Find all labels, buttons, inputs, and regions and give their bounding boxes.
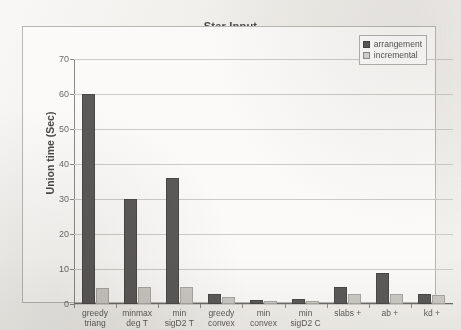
x-axis-label-line: greedy [200,308,242,318]
legend-item-arrangement: arrangement [363,39,422,50]
bar-group [327,59,369,304]
bar-groups [74,59,453,304]
x-axis-label-line: ab + [369,308,411,318]
x-axis-label-line: kd + [411,308,453,318]
chart-legend: arrangement incremental [359,35,427,65]
y-tick-label: 30 [59,194,69,204]
bar-group [74,59,116,304]
x-axis-label-line: sigD2 C [285,318,327,328]
bar-incremental [306,301,319,305]
x-axis-label: minconvex [242,308,284,328]
bar-group [242,59,284,304]
bar-arrangement [166,178,179,304]
x-axis-label: minmaxdeg T [116,308,158,328]
bar-group [285,59,327,304]
x-axis-label: greedyconvex [200,308,242,328]
x-axis-label: ab + [369,308,411,328]
y-tick-label: 60 [59,89,69,99]
x-axis-label-line: greedy [74,308,116,318]
x-axis-label-line: deg T [116,318,158,328]
bar-arrangement [82,94,95,304]
legend-item-incremental: incremental [363,50,422,61]
x-axis-label-line: convex [200,318,242,328]
x-axis-labels: greedytriangminmaxdeg TminsigD2 Tgreedyc… [74,308,453,328]
legend-swatch-icon [363,41,370,48]
x-axis-label: greedytriang [74,308,116,328]
x-axis-label-line: sigD2 T [158,318,200,328]
x-axis-label-line: min [285,308,327,318]
bar-group [158,59,200,304]
y-tick-label: 70 [59,54,69,64]
bar-group [369,59,411,304]
x-axis-label-line: min [158,308,200,318]
x-axis-label-line: min [242,308,284,318]
chart-frame: Union time (Sec) 010203040506070 greedyt… [22,26,436,303]
bar-group [411,59,453,304]
bar-arrangement [418,294,431,305]
bar-incremental [138,287,151,305]
chart-page: Star Input Union time (Sec) 010203040506… [0,0,461,330]
bar-group [116,59,158,304]
x-axis-label-line: slabs + [327,308,369,318]
y-tick-label: 20 [59,229,69,239]
x-axis-label: minsigD2 T [158,308,200,328]
x-axis-label-line: convex [242,318,284,328]
y-tick-label: 0 [64,299,69,309]
bar-incremental [222,297,235,304]
bar-arrangement [208,294,221,305]
x-axis-label: kd + [411,308,453,328]
bar-incremental [432,295,445,304]
bar-incremental [96,288,109,304]
gridline [74,304,453,305]
bar-incremental [348,294,361,305]
bar-incremental [180,287,193,305]
bar-arrangement [376,273,389,305]
y-tick-label: 10 [59,264,69,274]
legend-label: arrangement [374,39,422,50]
x-axis-label: slabs + [327,308,369,328]
bar-arrangement [334,287,347,305]
y-tick-label: 50 [59,124,69,134]
legend-label: incremental [374,50,418,61]
bar-arrangement [292,299,305,304]
x-axis-label-line: minmax [116,308,158,318]
x-axis-label: minsigD2 C [285,308,327,328]
y-axis-title: Union time (Sec) [44,78,56,228]
plot-area: 010203040506070 [74,59,453,304]
bar-group [200,59,242,304]
bar-arrangement [250,300,263,304]
bar-arrangement [124,199,137,304]
legend-swatch-icon [363,52,370,59]
bar-incremental [264,301,277,305]
x-axis-label-line: triang [74,318,116,328]
bar-incremental [390,294,403,305]
y-tick-label: 40 [59,159,69,169]
